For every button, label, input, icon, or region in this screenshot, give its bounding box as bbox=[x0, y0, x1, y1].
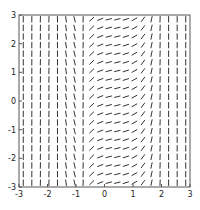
field-arrow bbox=[114, 19, 120, 21]
field-arrow bbox=[66, 137, 67, 143]
field-arrow bbox=[97, 70, 103, 72]
field-arrow bbox=[114, 105, 120, 107]
field-arrow bbox=[114, 165, 120, 167]
field-arrow bbox=[106, 139, 112, 141]
field-arrow bbox=[114, 62, 120, 64]
field-arrow bbox=[132, 147, 138, 150]
field-arrow bbox=[141, 172, 145, 177]
field-arrow bbox=[114, 36, 120, 38]
field-arrow bbox=[106, 44, 112, 46]
field-arrow bbox=[123, 53, 129, 55]
field-arrow bbox=[123, 122, 129, 124]
field-arrow bbox=[132, 130, 138, 133]
field-arrow bbox=[141, 137, 145, 142]
field-arrow bbox=[74, 137, 76, 143]
field-arrow bbox=[89, 34, 94, 38]
y-tick-label: -1 bbox=[8, 126, 16, 135]
field-arrow bbox=[66, 102, 67, 108]
field-arrow bbox=[97, 104, 103, 106]
field-arrow bbox=[66, 33, 67, 39]
field-arrow bbox=[141, 111, 145, 116]
field-arrow bbox=[89, 112, 94, 116]
field-arrow bbox=[151, 137, 152, 143]
field-arrow bbox=[151, 154, 152, 160]
field-arrow bbox=[66, 16, 67, 22]
field-arrow bbox=[123, 79, 129, 81]
field-arrow bbox=[106, 62, 112, 64]
field-arrow bbox=[141, 34, 145, 39]
field-arrow bbox=[89, 137, 94, 141]
field-arrow bbox=[74, 76, 76, 82]
field-arrow bbox=[114, 173, 120, 175]
field-arrow bbox=[141, 163, 145, 168]
field-arrow bbox=[97, 139, 103, 141]
field-arrow bbox=[123, 156, 129, 158]
x-tick-label: 2 bbox=[159, 190, 164, 199]
field-arrow bbox=[66, 171, 67, 177]
field-arrow bbox=[66, 68, 67, 74]
field-arrow bbox=[123, 182, 129, 184]
field-arrow bbox=[66, 59, 67, 65]
field-arrow bbox=[97, 156, 103, 158]
field-arrow bbox=[66, 42, 67, 48]
field-arrow bbox=[74, 68, 76, 74]
field-arrow bbox=[89, 103, 94, 107]
field-arrow bbox=[89, 51, 94, 55]
field-arrow bbox=[141, 51, 145, 56]
field-arrow bbox=[123, 173, 129, 175]
field-arrow bbox=[106, 53, 112, 55]
field-arrow bbox=[141, 68, 145, 73]
field-arrow bbox=[97, 87, 103, 89]
field-arrow bbox=[106, 70, 112, 72]
field-arrow bbox=[66, 154, 67, 160]
field-arrow bbox=[106, 96, 112, 98]
field-arrow bbox=[74, 102, 76, 108]
field-arrow bbox=[97, 96, 103, 98]
field-arrow bbox=[89, 43, 94, 47]
field-arrow bbox=[132, 52, 138, 55]
field-arrow bbox=[151, 94, 152, 100]
field-arrow bbox=[141, 77, 145, 82]
field-arrow bbox=[74, 111, 76, 117]
field-arrow bbox=[114, 79, 120, 81]
field-arrow bbox=[106, 148, 112, 150]
field-arrow bbox=[123, 61, 129, 63]
field-arrow bbox=[114, 27, 120, 29]
field-arrow bbox=[114, 130, 120, 132]
field-arrow bbox=[114, 87, 120, 89]
field-arrow bbox=[114, 113, 120, 115]
field-arrow bbox=[66, 119, 67, 125]
field-arrow bbox=[74, 154, 76, 160]
field-arrow bbox=[141, 25, 145, 30]
field-arrow bbox=[114, 53, 120, 55]
field-arrow bbox=[89, 146, 94, 150]
field-arrow bbox=[132, 121, 138, 124]
field-arrow bbox=[132, 173, 138, 176]
field-arrow bbox=[74, 42, 76, 48]
field-arrow bbox=[106, 113, 112, 115]
field-arrow bbox=[132, 87, 138, 90]
field-arrow bbox=[132, 44, 138, 47]
field-arrow bbox=[66, 111, 67, 117]
field-arrow bbox=[151, 76, 152, 82]
field-arrow bbox=[141, 43, 145, 48]
field-arrow bbox=[106, 165, 112, 167]
field-arrow bbox=[132, 69, 138, 72]
field-arrow bbox=[66, 51, 67, 57]
field-arrow bbox=[66, 85, 67, 91]
field-arrow bbox=[114, 122, 120, 124]
field-arrow bbox=[132, 61, 138, 64]
field-arrow bbox=[151, 111, 152, 117]
field-arrow bbox=[132, 95, 138, 98]
y-tick-label: -2 bbox=[8, 154, 16, 163]
vector-field-arrows bbox=[23, 16, 185, 186]
field-arrow bbox=[123, 27, 129, 29]
field-arrow bbox=[74, 162, 76, 168]
field-arrow bbox=[114, 44, 120, 46]
field-arrow bbox=[123, 130, 129, 132]
field-arrow bbox=[106, 173, 112, 175]
field-arrow bbox=[89, 129, 94, 133]
field-arrow bbox=[132, 155, 138, 158]
field-arrow bbox=[97, 121, 103, 123]
field-arrow bbox=[151, 42, 152, 48]
